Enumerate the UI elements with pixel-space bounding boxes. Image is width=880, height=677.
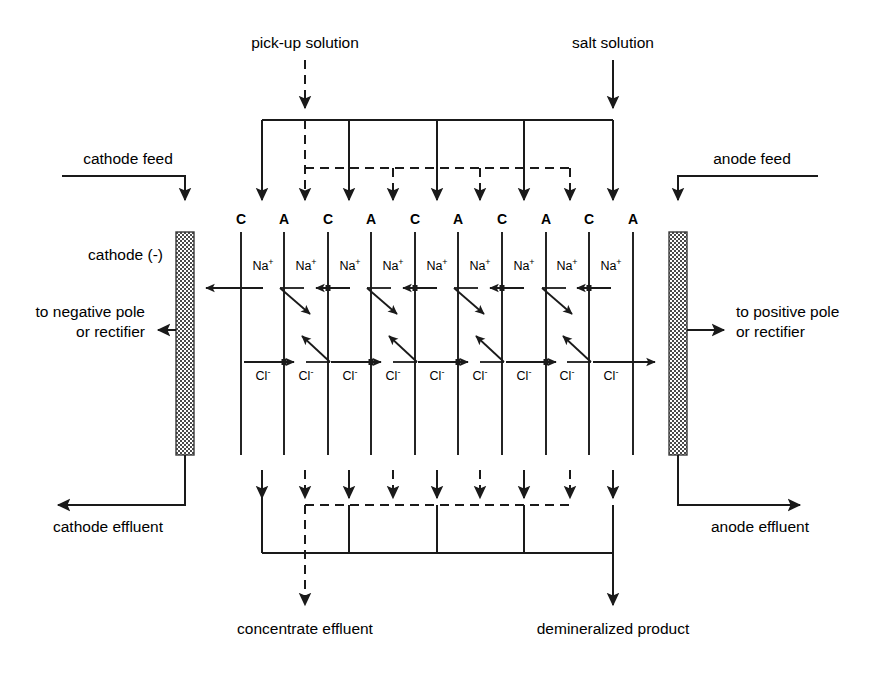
sodium-ion-label-3: Na+ (339, 257, 360, 273)
membrane-label-A: A (279, 211, 289, 227)
negative-pole-label-line1: to negative pole (36, 303, 145, 320)
sodium-ion-label-5: Na+ (426, 257, 447, 273)
cathode-electrode (176, 232, 194, 455)
chloride-ion-label-7: Cl- (517, 367, 532, 383)
membrane-cation-7: C (497, 211, 507, 455)
membrane-label-A: A (366, 211, 376, 227)
membrane-anion-6: A (453, 211, 463, 455)
cathode-effluent-line (58, 455, 185, 505)
cathode-feed-line (62, 176, 185, 200)
sodium-ion-label-2: Na+ (295, 257, 316, 273)
anode-feed-label: anode feed (713, 150, 791, 167)
demineralized-product-label: demineralized product (537, 620, 690, 637)
membrane-label-A: A (628, 211, 638, 227)
membrane-group: CACACACACA (236, 211, 638, 455)
pickup-solution-label: pick-up solution (251, 34, 359, 51)
membrane-cation-1: C (236, 211, 246, 455)
membrane-anion-10: A (628, 211, 638, 455)
membrane-cation-5: C (410, 211, 420, 455)
anode-effluent-line (678, 455, 800, 505)
diagram-canvas: pick-up solution salt solution (0, 0, 880, 677)
membrane-cation-9: C (584, 211, 594, 455)
top-solid-manifold (262, 120, 613, 200)
electrodialysis-diagram: pick-up solution salt solution (0, 0, 880, 677)
chloride-ion-label-5: Cl- (430, 367, 445, 383)
bottom-solid-manifold (262, 470, 613, 605)
membrane-cation-3: C (323, 211, 333, 455)
membrane-label-C: C (410, 211, 420, 227)
cathode-feed-label: cathode feed (83, 150, 173, 167)
cathode-label: cathode (-) (88, 246, 163, 263)
concentrate-effluent-label: concentrate effluent (237, 620, 374, 637)
cathode-effluent-label: cathode effluent (53, 518, 164, 535)
membrane-label-A: A (453, 211, 463, 227)
chloride-diagonal-arrow-1 (302, 336, 330, 362)
sodium-ion-label-4: Na+ (382, 257, 403, 273)
membrane-anion-4: A (366, 211, 376, 455)
anode-feed-line (678, 176, 818, 200)
negative-pole-label-line2: or rectifier (76, 323, 145, 340)
membrane-label-C: C (236, 211, 246, 227)
chloride-diagonal-arrow-3 (476, 336, 504, 362)
sodium-ion-label-1: Na+ (252, 257, 273, 273)
membrane-label-A: A (541, 211, 551, 227)
membrane-label-C: C (584, 211, 594, 227)
positive-pole-label-line1: to positive pole (736, 303, 839, 320)
membrane-anion-2: A (279, 211, 289, 455)
sodium-ion-label-6: Na+ (469, 257, 490, 273)
membrane-label-C: C (323, 211, 333, 227)
chloride-ion-label-9: Cl- (604, 367, 619, 383)
sodium-ion-label-9: Na+ (600, 257, 621, 273)
ion-transport-group: Na+Na+Na+Na+Na+Na+Na+Na+Na+Cl-Cl-Cl-Cl-C… (206, 257, 655, 383)
chloride-ion-label-1: Cl- (256, 367, 271, 383)
positive-pole-label-line2: or rectifier (736, 323, 805, 340)
chloride-diagonal-arrow-4 (563, 336, 591, 362)
chloride-ion-label-2: Cl- (299, 367, 314, 383)
sodium-ion-label-7: Na+ (513, 257, 534, 273)
chloride-ion-label-4: Cl- (386, 367, 401, 383)
chloride-diagonal-arrow-2 (389, 336, 417, 362)
sodium-ion-label-8: Na+ (556, 257, 577, 273)
membrane-anion-8: A (541, 211, 551, 455)
chloride-ion-label-8: Cl- (560, 367, 575, 383)
anode-electrode (669, 232, 687, 455)
membrane-label-C: C (497, 211, 507, 227)
chloride-ion-label-6: Cl- (473, 367, 488, 383)
salt-solution-label: salt solution (572, 34, 654, 51)
anode-effluent-label: anode effluent (711, 518, 810, 535)
chloride-ion-label-3: Cl- (343, 367, 358, 383)
